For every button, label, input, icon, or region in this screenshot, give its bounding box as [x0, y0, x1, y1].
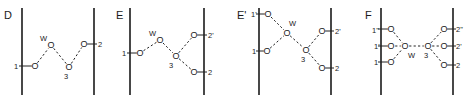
hydrogen-bond-dashed-line [54, 48, 67, 63]
hydrogen-bond-network-figure: DO1OWO3O2EO1OWO3O2'O2E'O1'OWO1O3O2'O2FO1… [0, 0, 470, 97]
oxygen-atom: O [424, 41, 431, 51]
panel-e-prime: E'O1'OWO1O3O2'O2 [237, 8, 341, 95]
panel-letter: D [4, 9, 12, 21]
site-label: 2 [456, 61, 460, 70]
site-label: 1 [14, 62, 18, 71]
site-label: 1 [122, 49, 126, 58]
water-label: W [149, 29, 157, 38]
hydrogen-bond-dashed-line [144, 42, 157, 50]
site-label: 1' [374, 42, 380, 51]
panel-letter: E [116, 9, 123, 21]
oxygen-atom: O [47, 40, 54, 50]
site-label: 3 [301, 55, 305, 64]
site-label: 1 [252, 47, 256, 56]
hydrogen-bond-dashed-line [290, 36, 303, 47]
oxygen-atom: O [190, 67, 197, 77]
oxygen-atom: O [440, 60, 447, 70]
site-label: 3 [169, 61, 173, 70]
oxygen-atom: O [387, 41, 394, 51]
oxygen-atom: O [302, 45, 309, 55]
hydrogen-bond-dashed-line [179, 38, 192, 53]
panel-e: EO1OWO3O2'O2 [116, 8, 214, 95]
hydrogen-bond-dashed-line [271, 17, 284, 30]
panel-f: FO1''O1'O1OWO3O2''O2'O2 [365, 8, 464, 95]
oxygen-atom: O [31, 61, 38, 71]
water-label: W [289, 19, 297, 28]
water-label: W [408, 51, 416, 60]
oxygen-atom: O [318, 26, 325, 36]
oxygen-atom: O [80, 39, 87, 49]
oxygen-atom: O [156, 35, 163, 45]
site-label: 2' [456, 42, 462, 51]
site-label: 2 [335, 64, 339, 73]
site-label: 2' [335, 27, 341, 36]
oxygen-atom: O [440, 24, 447, 34]
site-label: 1' [251, 10, 257, 19]
panel-letter: F [365, 9, 372, 21]
site-label: 3 [64, 72, 68, 81]
site-label: 2 [208, 68, 212, 77]
oxygen-atom: O [401, 41, 408, 51]
site-label: 1 [374, 58, 378, 67]
oxygen-atom: O [190, 30, 197, 40]
site-label: 2 [98, 40, 102, 49]
panel-d: DO1OWO3O2 [4, 8, 102, 95]
oxygen-atom: O [440, 41, 447, 51]
oxygen-atom: O [387, 57, 394, 67]
site-label: 1'' [372, 26, 380, 35]
oxygen-atom: O [263, 46, 270, 56]
oxygen-atom: O [172, 51, 179, 61]
site-label: 3 [424, 51, 428, 60]
hydrogen-bond-dashed-line [38, 48, 49, 62]
oxygen-atom: O [318, 63, 325, 73]
oxygen-atom: O [65, 62, 72, 72]
site-label: 2' [208, 31, 214, 40]
panel-letter: E' [237, 9, 246, 21]
water-label: W [40, 34, 48, 43]
oxygen-atom: O [283, 28, 290, 38]
hydrogen-bond-dashed-line [179, 59, 191, 69]
oxygen-atom: O [264, 9, 271, 19]
oxygen-atom: O [136, 48, 143, 58]
site-label: 2'' [456, 25, 464, 34]
hydrogen-bond-dashed-line [270, 36, 284, 48]
oxygen-atom: O [387, 24, 394, 34]
hydrogen-bond-dashed-line [71, 48, 81, 64]
